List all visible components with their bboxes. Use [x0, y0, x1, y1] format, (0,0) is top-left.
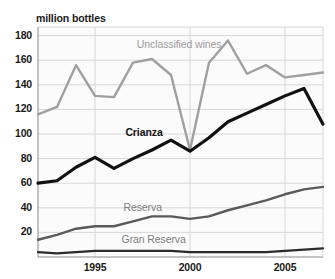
series-label-reserva: Reserva: [124, 201, 162, 213]
y-tick-label-120: 120: [6, 102, 32, 114]
y-tick-label-180: 180: [6, 29, 32, 41]
x-tick-label-1995: 1995: [75, 261, 115, 273]
series-label-crianza: Crianza: [125, 126, 162, 138]
plot-background-group: [38, 27, 323, 257]
y-tick-label-140: 140: [6, 78, 32, 90]
wine-production-line-chart: million bottles 18016014012010080604020 …: [0, 0, 335, 279]
x-tick-label-2000: 2000: [170, 261, 210, 273]
series-label-gran-reserva: Gran Reserva: [122, 233, 186, 245]
series-label-unclassified-wines: Unclassified wines: [137, 38, 222, 50]
plot-background: [38, 27, 323, 257]
y-tick-label-100: 100: [6, 127, 32, 139]
y-tick-label-80: 80: [6, 152, 32, 164]
y-tick-label-20: 20: [6, 225, 32, 237]
y-tick-label-40: 40: [6, 201, 32, 213]
y-tick-label-160: 160: [6, 53, 32, 65]
y-tick-label-60: 60: [6, 176, 32, 188]
x-tick-label-2005: 2005: [265, 261, 305, 273]
